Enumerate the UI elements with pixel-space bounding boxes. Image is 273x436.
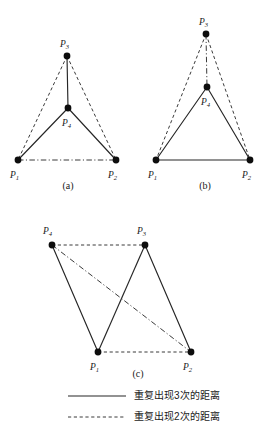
legend: 重复出现3次的距离 重复出现2次的距离 — [0, 388, 273, 436]
vertex-label-p1: P1 — [89, 362, 99, 373]
legend-swatch-dashed-icon — [68, 412, 126, 422]
edge-p3-p4 — [67, 56, 68, 108]
vertex-p3 — [203, 31, 210, 38]
vertex-p4 — [49, 242, 56, 249]
vertex-p1 — [95, 349, 102, 356]
vertex-p3 — [64, 53, 71, 60]
vertex-p2 — [113, 157, 120, 164]
edge-p3-p2 — [67, 56, 116, 160]
vertex-p2 — [247, 157, 254, 164]
vertex-label-p1: P1 — [9, 170, 19, 181]
vertex-label-p3: P3 — [198, 17, 209, 28]
edge-p3-p4 — [206, 34, 207, 87]
panel-b-diagram: P1P2P3P4 — [136, 0, 273, 200]
legend-label-solid: 重复出现3次的距离 — [134, 390, 220, 402]
vertex-label-p4: P4 — [42, 226, 53, 237]
vertex-label-p4: P4 — [61, 118, 72, 129]
edge-p4-p2 — [207, 87, 250, 160]
vertex-p1 — [15, 157, 22, 164]
panel-c-caption: (c) — [108, 368, 168, 379]
vertex-label-p3: P3 — [59, 39, 70, 50]
vertex-p1 — [153, 157, 160, 164]
legend-label-dashed: 重复出现2次的距离 — [134, 411, 220, 423]
edge-p3-p1 — [18, 56, 67, 160]
vertex-label-p3: P3 — [136, 226, 147, 237]
panel-a-diagram: P1P2P3P4 — [0, 0, 137, 200]
vertex-label-p4: P4 — [200, 97, 211, 108]
edge-p4-p2 — [68, 108, 116, 160]
edge-p4-p1 — [156, 87, 207, 160]
panel-a-caption: (a) — [38, 180, 98, 191]
vertex-p2 — [188, 349, 195, 356]
panel-c-diagram: P4P3P1P2 — [30, 200, 245, 390]
edge-p4-p1 — [18, 108, 68, 160]
edge-p4-p2 — [52, 245, 191, 352]
vertex-label-p2: P2 — [182, 362, 193, 373]
legend-swatch-solid-icon — [68, 391, 126, 401]
legend-item-dashed: 重复出现2次的距离 — [68, 411, 220, 423]
figure-container: P1P2P3P4 P1P2P3P4 P4P3P1P2 (a) (b) (c) 重… — [0, 0, 273, 436]
panel-b-caption: (b) — [175, 180, 235, 191]
edge-p4-p1 — [52, 245, 98, 352]
vertex-label-p2: P2 — [241, 170, 252, 181]
vertex-p3 — [142, 242, 149, 249]
vertex-p4 — [204, 84, 211, 91]
edge-p3-p1 — [156, 34, 206, 160]
legend-item-solid: 重复出现3次的距离 — [68, 390, 220, 402]
vertex-label-p2: P2 — [107, 170, 118, 181]
edge-p3-p2 — [145, 245, 191, 352]
vertex-label-p1: P1 — [147, 170, 157, 181]
vertex-p4 — [65, 105, 72, 112]
